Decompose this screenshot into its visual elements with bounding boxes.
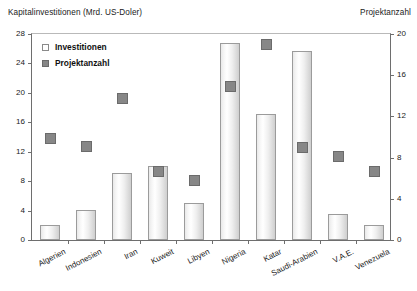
x-tick [284,240,285,244]
x-category-label: V.A.E. [331,247,355,265]
x-tick [320,240,321,244]
x-tick [68,240,69,244]
bar [40,225,60,240]
x-tick [356,240,357,244]
data-point-marker [297,142,308,153]
data-point-marker [369,166,380,177]
x-category-label: Iran [123,247,139,261]
x-tick [140,240,141,244]
y-tick-left [28,34,32,35]
bar [220,43,240,240]
legend-label: Investitionen [55,42,107,52]
y-tick-left [28,63,32,64]
y-tick-label-right: 0 [397,236,401,244]
bar [328,214,348,240]
y-tick-label-left: 12 [16,148,25,156]
y-tick-label-left: 0 [21,236,25,244]
chart-container: Kapitalinvestitionen (Mrd. US-Doler) Pro… [0,0,417,291]
data-point-marker [45,133,56,144]
legend-item: Investitionen [42,40,109,54]
x-category-label: Kuweit [150,247,175,266]
bar [256,114,276,240]
y-tick-right [390,158,394,159]
left-axis-title: Kapitalinvestitionen (Mrd. US-Doler) [8,8,142,17]
data-point-marker [261,39,272,50]
data-point-marker [153,166,164,177]
x-tick [104,240,105,244]
data-point-marker [225,81,236,92]
right-axis-title: Projektanzahl [360,8,411,17]
bar [184,203,204,240]
y-tick-right [390,75,394,76]
y-tick-left [28,152,32,153]
x-tick [212,240,213,244]
x-category-label: Indonesien [64,247,103,273]
y-tick-label-right: 20 [397,30,406,38]
x-tick [176,240,177,244]
data-point-marker [117,93,128,104]
bar [148,166,168,240]
y-tick-label-left: 16 [16,118,25,126]
data-point-marker [189,175,200,186]
legend-swatch-icon [42,60,49,67]
y-tick-label-left: 28 [16,30,25,38]
y-tick-label-left: 8 [21,177,25,185]
x-category-label: Libyen [186,247,211,266]
bar [76,210,96,240]
y-tick-label-right: 8 [397,154,401,162]
y-tick-right [390,34,394,35]
x-tick [248,240,249,244]
x-category-label: Katar [262,247,283,264]
y-tick-right [390,116,394,117]
y-tick-left [28,93,32,94]
bar [112,173,132,240]
data-point-marker [333,151,344,162]
y-tick-label-right: 12 [397,112,406,120]
chart-legend: InvestitionenProjektanzahl [42,40,109,72]
y-tick-label-right: 4 [397,195,401,203]
y-tick-right [390,240,394,241]
y-tick-right [390,199,394,200]
x-category-label: Algerien [37,247,67,268]
data-point-marker [81,141,92,152]
y-tick-label-left: 4 [21,207,25,215]
y-tick-left [28,240,32,241]
y-tick-left [28,211,32,212]
y-tick-label-right: 16 [397,71,406,79]
legend-item: Projektanzahl [42,56,109,70]
y-tick-left [28,122,32,123]
x-category-label: Venezuela [354,247,391,272]
y-tick-label-left: 24 [16,59,25,67]
legend-swatch-icon [42,44,49,51]
bar [364,225,384,240]
legend-label: Projektanzahl [55,58,109,68]
y-tick-label-left: 20 [16,89,25,97]
y-tick-left [28,181,32,182]
x-category-label: Nigeria [220,247,247,267]
